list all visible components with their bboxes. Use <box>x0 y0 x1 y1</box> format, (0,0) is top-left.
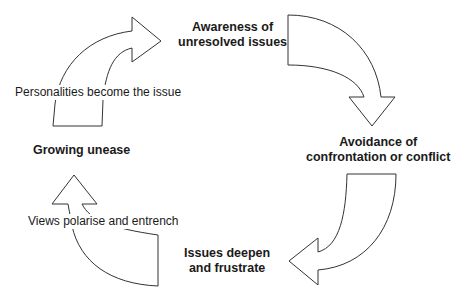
stage-deepen: Issues deepen and frustrate <box>184 246 270 276</box>
stage-unease: Growing unease <box>33 143 130 158</box>
transition-personalities: Personalities become the issue <box>14 85 182 100</box>
stage-avoidance: Avoidance of confrontation or conflict <box>306 135 450 165</box>
stage-avoidance-line-2: confrontation or conflict <box>306 150 450 165</box>
stage-deepen-line-2: and frustrate <box>184 261 270 276</box>
stage-awareness-line-2: unresolved issues <box>178 35 287 50</box>
arrow-up-icon <box>52 175 158 286</box>
stage-unease-line-1: Growing unease <box>33 143 130 158</box>
stage-deepen-line-1: Issues deepen <box>184 246 270 261</box>
stage-avoidance-line-1: Avoidance of <box>306 135 450 150</box>
arrow-up-right-icon <box>53 17 161 126</box>
stage-awareness: Awareness of unresolved issues <box>178 20 287 50</box>
transition-views: Views polarise and entrench <box>27 214 180 229</box>
stage-awareness-line-1: Awareness of <box>178 20 287 35</box>
arrow-down-left-icon <box>289 174 396 285</box>
arrow-down-icon <box>288 15 395 126</box>
